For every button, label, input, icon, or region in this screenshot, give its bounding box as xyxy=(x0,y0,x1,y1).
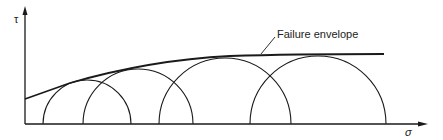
mohr-circles xyxy=(43,56,386,124)
x-axis-label: σ xyxy=(405,126,412,138)
mohr-circle-3 xyxy=(159,58,291,124)
mohr-circle-4 xyxy=(250,56,386,124)
x-axis-arrow-icon xyxy=(418,122,428,127)
y-axis-label: τ xyxy=(14,13,19,25)
envelope-leader-line xyxy=(261,37,275,54)
y-axis-arrow-icon xyxy=(23,6,28,15)
envelope-label: Failure envelope xyxy=(277,28,358,40)
mohr-circle-2 xyxy=(83,69,193,124)
mohr-diagram: τ σ Failure envelope xyxy=(0,0,443,140)
